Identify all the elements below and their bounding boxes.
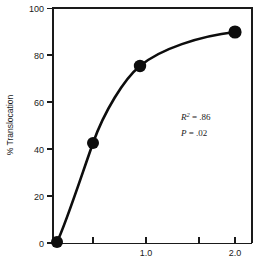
y-tick-label-100: 100 [29,4,44,14]
chart-background [0,0,268,265]
y-tick-label-20: 20 [34,192,44,202]
y-axis-title: % Translocation [5,94,15,155]
x-tick-label-2-0: 2.0 [229,248,242,258]
x-tick-label-1-0: 1.0 [140,248,153,258]
translocation-line-chart: 0 20 40 60 80 100 % Translocation 1.0 2.… [0,0,268,265]
data-point [51,236,63,248]
p-value-value: = .02 [187,128,208,138]
y-tick-label-0: 0 [39,239,44,249]
data-point [228,25,241,38]
y-tick-label-60: 60 [34,98,44,108]
r-squared-annotation: R2 = .86 [180,111,211,122]
y-tick-label-40: 40 [34,145,44,155]
data-point [87,137,99,149]
chart-figure: 0 20 40 60 80 100 % Translocation 1.0 2.… [0,0,268,265]
r-squared-value: = .86 [190,112,211,122]
p-value-annotation: P = .02 [180,128,207,138]
data-point [134,60,146,72]
y-tick-label-80: 80 [34,51,44,61]
